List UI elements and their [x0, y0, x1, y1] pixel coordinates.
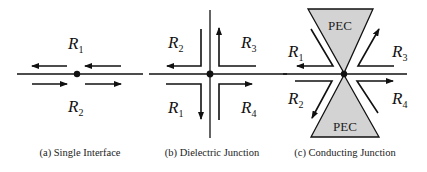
region-label-r4: R4 [391, 89, 407, 110]
region-label-r2: R2 [167, 33, 183, 54]
caption-c: (c) Conducting Junction [294, 147, 395, 158]
region-label-r1: R1 [67, 34, 83, 55]
region-label-r1: R1 [167, 98, 183, 119]
panel-b-dielectric-junction: R2 R3 R1 R4 [149, 10, 287, 138]
panel-a-single-interface: R1 R2 [17, 34, 143, 118]
panel-c-conducting-junction: PEC PEC R1 R3 R2 R4 [283, 9, 407, 137]
region-label-r3: R3 [240, 33, 256, 54]
pec-label-top: PEC [328, 18, 352, 33]
junction-dot [74, 71, 80, 77]
caption-b: (b) Dielectric Junction [165, 147, 259, 158]
region-label-r3: R3 [391, 42, 407, 63]
junction-dot [341, 71, 347, 77]
caption-a: (a) Single Interface [39, 147, 120, 158]
region-label-r1: R1 [287, 42, 303, 63]
path-arrow-up-right-icon [358, 29, 394, 66]
region-label-r2: R2 [67, 97, 83, 118]
junction-figure: R1 R2 R2 R3 R1 R4 PEC [0, 0, 427, 172]
region-label-r2: R2 [287, 89, 303, 110]
junction-dot [207, 71, 214, 78]
pec-label-bottom: PEC [333, 119, 357, 134]
region-label-r4: R4 [240, 98, 256, 119]
